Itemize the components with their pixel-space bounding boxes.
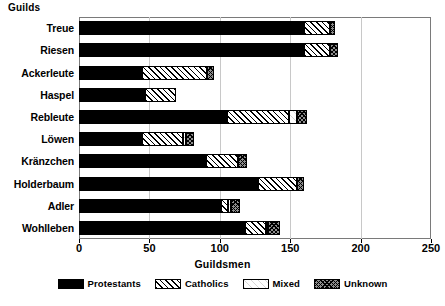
bar-segment-catholics (304, 43, 329, 57)
category-label: Haspel (40, 89, 74, 101)
x-tick-label: 150 (281, 242, 299, 254)
category-label: Löwen (41, 133, 74, 145)
bar-segment-catholics (304, 21, 329, 35)
legend-swatch-catholics-icon (155, 279, 181, 289)
bar-row (79, 132, 431, 146)
category-axis-labels: TreueRiesenAckerleuteHaspelRebleuteLöwen… (0, 17, 76, 239)
category-label: Kränzchen (21, 155, 74, 167)
bar-segment-protestants (79, 21, 304, 35)
legend-label: Unknown (344, 278, 387, 289)
legend-item-catholics[interactable]: Catholics (155, 278, 229, 289)
category-label: Ackerleute (21, 67, 74, 79)
category-label: Holderbaum (14, 178, 74, 190)
bar-row (79, 88, 431, 102)
bar-segment-catholics (245, 221, 266, 235)
x-tick-label: 0 (76, 242, 82, 254)
bar-segment-protestants (79, 43, 304, 57)
bar-segment-unknown (268, 221, 281, 235)
bar-segment-catholics (258, 177, 297, 191)
category-label: Rebleute (30, 111, 74, 123)
x-tick-label: 50 (143, 242, 155, 254)
bar-row (79, 177, 431, 191)
bar-segment-unknown (231, 199, 239, 213)
x-tick-label: 200 (351, 242, 369, 254)
bar-segment-protestants (79, 110, 227, 124)
x-tick-label: 100 (211, 242, 229, 254)
guilds-stacked-bar-chart: Guilds TreueRiesenAckerleuteHaspelRebleu… (0, 0, 445, 306)
bar-segment-catholics (142, 132, 183, 146)
category-label: Adler (48, 200, 74, 212)
legend-item-unknown[interactable]: Unknown (314, 278, 387, 289)
bar-segment-unknown (207, 66, 214, 80)
bar-row (79, 110, 431, 124)
bar-row (79, 221, 431, 235)
bar-segment-unknown (297, 110, 307, 124)
legend-item-protestants[interactable]: Protestants (58, 278, 141, 289)
legend-item-mixed[interactable]: Mixed (243, 278, 300, 289)
legend-swatch-protestants-icon (58, 279, 84, 289)
bar-segment-protestants (79, 199, 221, 213)
legend-swatch-mixed-icon (243, 279, 269, 289)
bar-segment-catholics (227, 110, 289, 124)
category-label: Riesen (40, 44, 74, 56)
x-tick-label: 250 (422, 242, 440, 254)
bar-segment-protestants (79, 66, 142, 80)
legend-swatch-unknown-icon (314, 279, 340, 289)
y-axis-title: Guilds (8, 2, 40, 13)
bar-segment-protestants (79, 221, 245, 235)
bar-segment-catholics (142, 66, 207, 80)
bar-row (79, 21, 431, 35)
bar-segment-protestants (79, 177, 258, 191)
bar-segment-protestants (79, 154, 206, 168)
bar-segment-unknown (330, 43, 338, 57)
bar-segment-unknown (238, 154, 246, 168)
bars-layer (79, 17, 431, 239)
category-label: Wohlleben (22, 222, 74, 234)
bar-row (79, 66, 431, 80)
bar-segment-unknown (330, 21, 336, 35)
bar-segment-mixed (289, 110, 297, 124)
bar-segment-protestants (79, 88, 145, 102)
legend-label: Catholics (185, 278, 229, 289)
legend-label: Mixed (273, 278, 300, 289)
bar-segment-catholics (206, 154, 238, 168)
bar-segment-catholics (145, 88, 176, 102)
legend-label: Protestants (88, 278, 141, 289)
bar-row (79, 154, 431, 168)
bar-row (79, 199, 431, 213)
bar-segment-unknown (297, 177, 304, 191)
bar-segment-protestants (79, 132, 142, 146)
bar-segment-unknown (186, 132, 194, 146)
chart-legend: ProtestantsCatholicsMixedUnknown (0, 278, 445, 289)
bar-row (79, 43, 431, 57)
category-label: Treue (46, 22, 74, 34)
bar-segment-catholics (221, 199, 228, 213)
x-axis-title: Guildsmen (0, 258, 445, 270)
